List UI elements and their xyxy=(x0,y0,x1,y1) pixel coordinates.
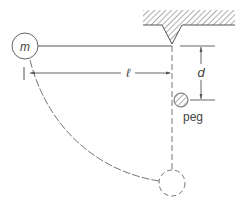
peg: peg xyxy=(174,93,203,124)
ceiling-support xyxy=(143,10,235,44)
pendulum-peg-diagram: m ℓ d peg xyxy=(0,0,250,209)
mass-bob: m xyxy=(12,33,38,59)
mass-label: m xyxy=(20,40,30,54)
peg-distance-label: d xyxy=(197,65,205,80)
swing-path-arc xyxy=(30,60,159,181)
peg-label: peg xyxy=(183,110,203,124)
length-dimension: ℓ xyxy=(24,66,171,80)
peg-distance-dimension: d xyxy=(180,46,215,100)
length-label: ℓ xyxy=(126,66,131,80)
mass-lowest-position xyxy=(159,170,185,196)
